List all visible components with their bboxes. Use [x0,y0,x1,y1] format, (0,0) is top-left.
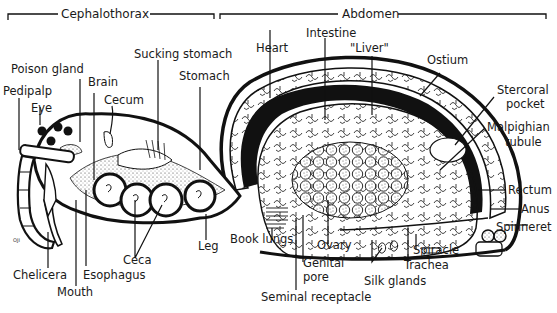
label-eye: Eye [31,101,52,115]
label-stercoral-pocket-line1: Stercoral [497,83,549,97]
label-anus: Anus [521,202,549,216]
cephalothorax-label: Cephalothorax [61,7,149,21]
ovary [292,142,408,218]
label-spinneret: Spinneret [496,220,552,234]
label-leg: Leg [198,239,219,253]
abdomen-label: Abdomen [342,7,399,21]
label-brain: Brain [88,75,118,89]
label-genital-pore-line2: pore [303,270,329,284]
label-poison-gland: Poison gland [11,62,84,76]
label-ostium: Ostium [427,53,468,67]
abdomen-bracket: Abdomen [220,7,546,21]
label-rectum: Rectum [508,183,552,197]
label-sucking-stomach: Sucking stomach [134,47,232,61]
label-spiracle: Spiracle [413,243,459,257]
label-ceca: Ceca [123,253,151,267]
label-malpighian-tubule-line2: tubule [505,135,542,149]
label-esophagus: Esophagus [83,268,146,282]
label-seminal-receptacle: Seminal receptacle [261,290,371,304]
label-book-lungs: Book lungs [230,232,293,246]
artist-mark: OJI [13,237,20,243]
label-stercoral-pocket-line2: pocket [506,97,545,111]
label-intestine: Intestine [306,26,356,40]
label-pedipalp: Pedipalp [3,84,52,98]
label-malpighian-tubule-line1: Malpighian [487,120,550,134]
label-chelicera: Chelicera [13,268,67,282]
spider-anatomy-diagram: Cephalothorax Abdomen [0,0,557,313]
label-mouth: Mouth [57,285,93,299]
label-stomach: Stomach [179,69,230,83]
label-ovary: Ovary [317,238,352,252]
label-genital-pore-line1: Genital [303,256,344,270]
label-trachea: Trachea [403,258,449,272]
label-heart: Heart [256,41,288,55]
label-silk-glands: Silk glands [364,274,426,288]
label-liver: "Liver" [350,41,389,55]
label-cecum: Cecum [104,93,144,107]
cephalothorax-bracket: Cephalothorax [8,7,214,21]
